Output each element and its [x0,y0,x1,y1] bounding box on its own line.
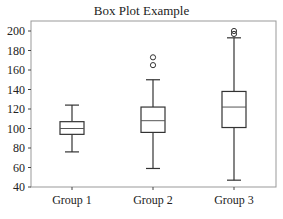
y-tick-label: 180 [7,44,25,58]
x-tick-label: Group 1 [52,193,92,207]
y-tick-label: 140 [7,83,25,97]
outlier-point [150,63,155,68]
outlier-point [150,55,155,60]
y-tick-label: 120 [7,102,25,116]
y-tick-label: 160 [7,63,25,77]
y-tick-label: 40 [13,180,25,194]
y-tick-label: 200 [7,24,25,38]
box [141,107,165,132]
y-tick-label: 80 [13,141,25,155]
box-plot: 406080100120140160180200Group 1Group 2Gr… [0,0,283,219]
x-tick-label: Group 2 [133,193,173,207]
y-tick-label: 100 [7,122,25,136]
box [222,91,246,127]
x-tick-label: Group 3 [214,193,254,207]
y-tick-label: 60 [13,161,25,175]
